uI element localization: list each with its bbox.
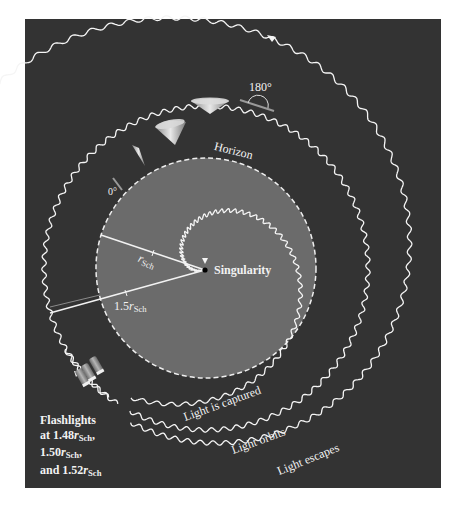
angle-0-label: 0° — [108, 187, 117, 197]
flashlights-line-1: Flashlights — [40, 413, 101, 428]
coefficient: 1.5 — [114, 299, 129, 313]
singularity-label: Singularity — [214, 264, 271, 276]
sch-subscript: Sch — [66, 450, 79, 460]
angle-180-label: 180° — [249, 81, 272, 93]
light-cone-wide — [191, 98, 229, 115]
flashlights-caption: Flashlights at 1.48rSch, 1.50rSch, and 1… — [40, 413, 101, 480]
escape-arrowhead-icon — [267, 35, 276, 42]
sch-subscript: Sch — [79, 433, 92, 443]
flashlights-line-4: and 1.52rSch — [40, 463, 101, 481]
flashlights-line-3: 1.50rSch, — [40, 445, 101, 463]
singularity-dot — [202, 267, 207, 272]
sch-subscript: Sch — [88, 468, 101, 478]
comma: , — [92, 428, 95, 442]
value-1-48: at 1.48 — [40, 428, 74, 442]
one-point-five-r-sch-label: 1.5rSch — [114, 300, 147, 314]
light-cone-medium — [154, 117, 186, 145]
comma: , — [79, 445, 82, 459]
light-cone-narrow — [132, 145, 145, 166]
value-1-50: 1.50 — [40, 445, 61, 459]
sch-subscript: Sch — [134, 304, 147, 314]
flashlights-line-2: at 1.48rSch, — [40, 428, 101, 446]
value-1-52: and 1.52 — [40, 463, 83, 477]
light-cone-180deg — [240, 100, 274, 111]
